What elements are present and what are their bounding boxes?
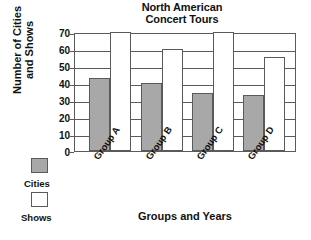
y-tick-mark (68, 152, 74, 153)
gridline-50 (75, 68, 295, 69)
y-tick-label: 70 (46, 29, 70, 39)
legend-label-cities: Cities (24, 178, 50, 189)
y-tick-label: 0 (46, 148, 70, 158)
y-tick-label: 60 (46, 46, 70, 56)
y-tick-label: 30 (46, 97, 70, 107)
y-axis-title: Number of Cities and Shows (11, 0, 35, 110)
y-tick-label: 20 (46, 114, 70, 124)
legend-swatch-shows (31, 192, 48, 207)
x-axis-title: Groups and Years (80, 210, 290, 222)
legend-label-shows: Shows (21, 212, 52, 223)
chart-title: North American Concert Tours (62, 2, 302, 25)
y-tick-label: 40 (46, 80, 70, 90)
y-tick-label: 50 (46, 63, 70, 73)
y-tick-label: 10 (46, 131, 70, 141)
gridline-60 (75, 51, 295, 52)
legend-swatch-cities (31, 158, 48, 173)
chart-container: North American Concert Tours Number of C… (0, 0, 311, 240)
